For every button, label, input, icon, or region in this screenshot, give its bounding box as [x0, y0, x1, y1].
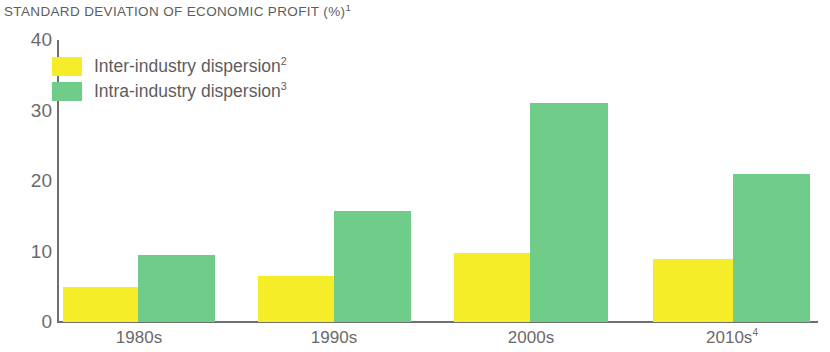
- x-axis-label-text: 2000s: [508, 328, 554, 347]
- legend-swatch-icon-inter-industry: [52, 57, 82, 76]
- y-tick-label: 10: [6, 241, 52, 263]
- legend-item-intra-industry: Intra-industry dispersion3: [52, 79, 287, 104]
- bar-inter-industry-1980s: [63, 287, 138, 322]
- x-axis-label-text: 1980s: [116, 328, 162, 347]
- bar-intra-industry-1980s: [138, 255, 215, 322]
- x-axis-label-text: 2010s: [706, 328, 752, 347]
- legend-label-inter-industry: Inter-industry dispersion2: [94, 56, 287, 77]
- y-tick-label: 20: [6, 170, 52, 192]
- y-tick-label: 40: [6, 29, 52, 51]
- y-tick-label: 0: [6, 311, 52, 333]
- x-axis-label-2010s: 2010s4: [661, 328, 803, 348]
- economic-profit-dispersion-chart: STANDARD DEVIATION OF ECONOMIC PROFIT (%…: [0, 0, 830, 352]
- x-axis-label-text: 1990s: [311, 328, 357, 347]
- x-axis-label-1990s: 1990s: [264, 328, 404, 348]
- legend-footnote-marker: 2: [281, 55, 287, 67]
- legend-label-intra-industry: Intra-industry dispersion3: [94, 81, 287, 102]
- legend-item-inter-industry: Inter-industry dispersion2: [52, 54, 287, 79]
- bar-inter-industry-2000s: [454, 253, 530, 322]
- legend-label-text: Intra-industry dispersion: [94, 81, 281, 101]
- y-tick-label: 30: [6, 100, 52, 122]
- x-axis-label-footnote-marker: 4: [752, 327, 758, 338]
- bar-intra-industry-2010s: [733, 174, 810, 322]
- bar-inter-industry-2010s: [653, 259, 733, 322]
- x-axis-label-2000s: 2000s: [461, 328, 601, 348]
- chart-legend: Inter-industry dispersion2 Intra-industr…: [52, 54, 287, 104]
- bar-intra-industry-1990s: [334, 211, 411, 322]
- bar-inter-industry-1990s: [258, 276, 334, 322]
- legend-label-text: Inter-industry dispersion: [94, 56, 281, 76]
- x-axis-label-1980s: 1980s: [69, 328, 209, 348]
- legend-footnote-marker: 3: [281, 80, 287, 92]
- bar-intra-industry-2000s: [530, 103, 608, 322]
- legend-swatch-icon-intra-industry: [52, 82, 82, 101]
- plot-area: 40 30 20 10 0 1980s 1990s: [0, 0, 830, 352]
